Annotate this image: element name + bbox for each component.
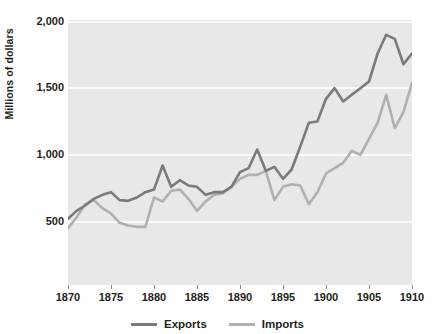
legend-entry-imports[interactable]: Imports <box>229 318 304 330</box>
x-axis-tick-label: 1900 <box>303 291 349 303</box>
x-axis-tick-label: 1895 <box>260 291 306 303</box>
chart-figure: Millions of dollars 2,0001,5001,000500 1… <box>0 0 435 334</box>
legend-entry-exports[interactable]: Exports <box>131 318 207 330</box>
y-axis-title: Millions of dollars <box>0 14 18 134</box>
x-axis: 187018751880188518901895190019051910 <box>0 285 435 315</box>
x-axis-tick-mark <box>283 285 284 289</box>
series-lines <box>68 20 412 285</box>
x-axis-tick-mark <box>240 285 241 289</box>
x-axis-tick-mark <box>412 285 413 289</box>
legend-label: Exports <box>164 318 207 330</box>
x-axis-tick-label: 1905 <box>346 291 392 303</box>
x-axis-tick-label: 1880 <box>131 291 177 303</box>
y-axis-title-text: Millions of dollars <box>3 28 15 119</box>
x-axis-tick-label: 1875 <box>88 291 134 303</box>
x-axis-tick-mark <box>68 285 69 289</box>
y-axis-tick-label: 1,500 <box>18 82 64 93</box>
legend-swatch-icon <box>229 323 255 326</box>
series-line-imports <box>68 83 412 228</box>
y-axis-tick-label: 2,000 <box>18 16 64 27</box>
series-line-exports <box>68 35 412 219</box>
plot-area <box>68 20 412 285</box>
y-axis-tick-label: 500 <box>18 216 64 227</box>
x-axis-tick-mark <box>197 285 198 289</box>
x-axis-tick-label: 1910 <box>389 291 435 303</box>
x-axis-tick-label: 1890 <box>217 291 263 303</box>
y-axis-tick-labels: 2,0001,5001,000500 <box>18 0 64 334</box>
x-axis-tick-label: 1885 <box>174 291 220 303</box>
x-axis-tick-mark <box>326 285 327 289</box>
chart-legend: ExportsImports <box>0 314 435 334</box>
legend-label: Imports <box>262 318 304 330</box>
x-axis-tick-mark <box>369 285 370 289</box>
y-axis-tick-label: 1,000 <box>18 149 64 160</box>
legend-swatch-icon <box>131 323 157 326</box>
x-axis-tick-mark <box>111 285 112 289</box>
x-axis-tick-mark <box>154 285 155 289</box>
x-axis-tick-label: 1870 <box>45 291 91 303</box>
